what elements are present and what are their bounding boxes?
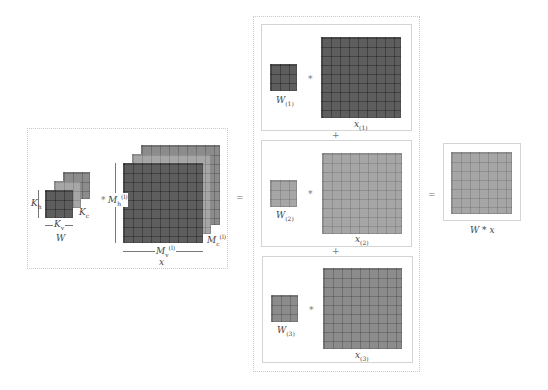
kernel-label-2: W(2) (276, 210, 294, 222)
conv-operator: * (101, 195, 106, 205)
conv-operator-3: * (309, 305, 314, 315)
kernel-channel-1 (45, 190, 73, 218)
output-matrix (451, 152, 512, 214)
equals-sign-1: = (236, 193, 244, 203)
output-label: W * x (470, 225, 495, 235)
input-channel-1 (123, 163, 203, 243)
input-label: x (159, 257, 164, 267)
conv-operator-2: * (308, 189, 313, 199)
kernel-height-label: Kh (31, 198, 42, 210)
input-channels-label: Mc(l) (207, 233, 226, 247)
input-height-label: Mh(l) (108, 193, 128, 207)
equals-sign-2: = (428, 190, 436, 200)
kernel-channel-1-slice (270, 64, 297, 91)
input-channel-2-slice (322, 153, 402, 234)
plus-sign-1: + (332, 130, 340, 140)
input-label-3: x(3) (355, 350, 369, 362)
conv-operator-1: * (308, 74, 313, 84)
kernel-width-label: Kv (53, 219, 65, 231)
kernel-channels-label: Kc (79, 207, 89, 219)
kernel-label-1: W(1) (276, 95, 294, 107)
kernel-channel-3-slice (271, 295, 298, 322)
input-width-label: Mv(l) (155, 244, 176, 258)
input-label-1: x(1) (354, 119, 368, 131)
input-channel-3-slice (323, 268, 402, 349)
input-channel-1-slice (321, 37, 401, 118)
kernel-label: W (56, 233, 65, 243)
input-label-2: x(2) (355, 234, 369, 246)
plus-sign-2: + (332, 246, 340, 256)
kernel-channel-2-slice (270, 180, 297, 207)
kernel-label-3: W(3) (277, 325, 295, 337)
